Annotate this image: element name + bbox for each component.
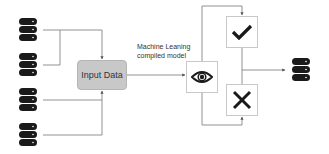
database-icon (18, 17, 38, 42)
connector-lines (0, 0, 329, 154)
x-icon (232, 90, 252, 110)
model-label-line2: compiled model (137, 51, 190, 60)
model-label: Machine Leaning compiled model (137, 42, 190, 60)
database-icon (18, 87, 38, 112)
source-database-3 (18, 87, 38, 112)
source-database-1 (18, 17, 38, 42)
check-icon (231, 24, 253, 40)
model-label-line1: Machine Leaning (137, 42, 190, 51)
reject-node (226, 84, 258, 116)
input-data-node: Input Data (77, 60, 127, 90)
source-database-2 (18, 52, 38, 77)
model-node (186, 61, 218, 93)
output-database (291, 57, 311, 82)
source-database-4 (18, 122, 38, 147)
database-icon (18, 52, 38, 77)
database-icon (18, 122, 38, 147)
eye-icon (191, 70, 213, 84)
database-icon (291, 57, 311, 82)
input-data-label: Input Data (81, 70, 123, 80)
accept-node (226, 16, 258, 48)
